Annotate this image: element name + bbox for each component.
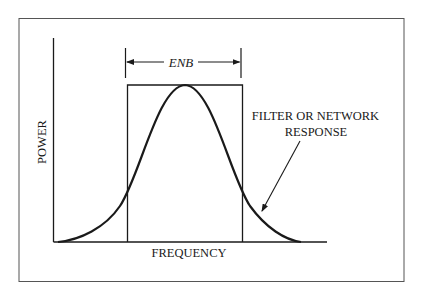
y-axis-label: POWER [35,119,49,163]
enb-rectangle [128,85,243,242]
enb-label: ENB [168,55,194,70]
curve-leader-arrow [262,141,300,211]
curve-label-line1: FILTER OR NETWORK [252,109,379,123]
x-axis-label: FREQUENCY [151,246,226,260]
enb-diagram: ENB FILTER OR NETWORK RESPONSE POWER FRE… [0,0,425,294]
curve-label-line2: RESPONSE [285,125,348,139]
